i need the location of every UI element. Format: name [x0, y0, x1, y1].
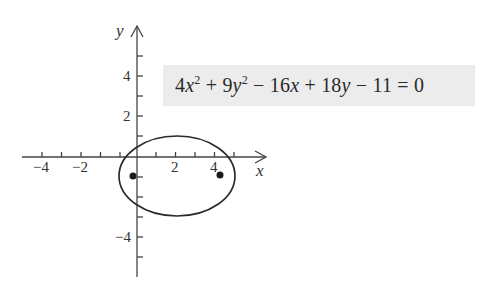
x-tick-label: −2 [72, 159, 88, 175]
graph: y x −4 −2 2 4 4 2 −4 [0, 0, 479, 287]
y-tick-label: 4 [123, 68, 131, 84]
focus-point-right [217, 172, 224, 179]
x-tick-label: 2 [171, 159, 179, 175]
y-tick-label: −4 [115, 229, 131, 245]
y-tick-label: 2 [123, 108, 131, 124]
x-tick-label: 4 [210, 159, 218, 175]
y-axis [131, 26, 143, 277]
x-axis-label: x [255, 161, 264, 180]
x-tick-label: −4 [33, 159, 49, 175]
focus-point-left [130, 173, 137, 180]
x-axis [22, 151, 266, 163]
y-axis-label: y [114, 21, 124, 40]
